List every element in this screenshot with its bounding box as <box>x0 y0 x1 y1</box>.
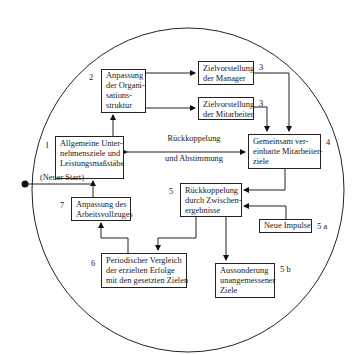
node-7-number: 7 <box>60 200 64 210</box>
node-1-line-2: nehmensziele und <box>60 149 119 159</box>
restart-label: (Neuer Start) <box>40 173 84 183</box>
restart-dot <box>22 181 29 188</box>
node-6-box: Periodischer Vergleich der erzielten Erf… <box>101 253 187 288</box>
feedback-label-2: und Abstimmung <box>144 154 244 164</box>
node-2-number: 2 <box>89 72 93 82</box>
node-6-number: 6 <box>91 258 95 268</box>
node-7-line-2: Arbeitsvollzuges <box>76 210 126 220</box>
node-4-box: Gemeinsam ver- einbarte Mitarbeiter- zie… <box>248 134 321 169</box>
node-5a-box: Neue Impulse <box>259 219 312 233</box>
node-2-line-4: struktur <box>106 101 141 111</box>
node-3a-box: Zielvorstellung der Manager <box>198 61 254 85</box>
node-7-line-1: Anpassung des <box>76 200 126 210</box>
node-3a-line-1: Zielvorstellung <box>203 64 249 74</box>
node-3a-line-2: der Manager <box>203 74 249 84</box>
node-6-line-3: mit den gesetzten Zielen <box>106 276 182 286</box>
node-5a-number: 5 a <box>317 221 327 231</box>
node-3b-box: Zielvorstellung der Mitarbeiter <box>198 97 254 120</box>
node-4-line-1: Gemeinsam ver- <box>253 137 316 147</box>
node-5b-line-1: Aussonderung <box>220 266 270 276</box>
node-5b-line-3: Ziele <box>220 286 270 296</box>
node-5-box: Rückkoppelung durch Zwischen- ergebnisse <box>180 183 242 217</box>
node-2-line-1: Anpassung <box>106 71 141 81</box>
node-2-line-3: sations- <box>106 91 141 101</box>
feedback-label-1: Rückkoppelung <box>144 134 244 144</box>
node-4-line-2: einbarte Mitarbeiter- <box>253 147 316 157</box>
node-2-line-2: der Organi- <box>106 81 141 91</box>
node-4-line-3: ziele <box>253 157 316 167</box>
node-3b-line-1: Zielvorstellung <box>203 100 249 110</box>
node-2-box: Anpassung der Organi- sations- struktur <box>101 69 146 113</box>
node-5b-number: 5 b <box>280 264 291 274</box>
node-5-line-3: ergebnisse <box>185 206 237 216</box>
node-3a-number: 3 <box>259 62 263 72</box>
node-5b-box: Aussonderung unangemessener Ziele <box>215 263 275 298</box>
node-3b-number: 3 <box>259 98 263 108</box>
node-1-number: 1 <box>45 140 49 150</box>
node-5-line-2: durch Zwischen- <box>185 196 237 206</box>
node-6-line-1: Periodischer Vergleich <box>106 256 182 266</box>
node-5b-line-2: unangemessener <box>220 276 270 286</box>
node-1-line-1: Allgemeine Unter- <box>60 139 119 149</box>
node-4-number: 4 <box>326 137 330 147</box>
node-1-line-3: Leistungsmaßstäbe <box>60 159 119 169</box>
node-5-line-1: Rückkoppelung <box>185 186 237 196</box>
node-3b-line-2: der Mitarbeiter <box>203 110 249 120</box>
node-5-number: 5 <box>169 186 173 196</box>
node-6-line-2: der erzielten Erfolge <box>106 266 182 276</box>
node-5a-line-1: Neue Impulse <box>264 221 307 231</box>
node-7-box: Anpassung des Arbeitsvollzuges <box>71 197 131 221</box>
